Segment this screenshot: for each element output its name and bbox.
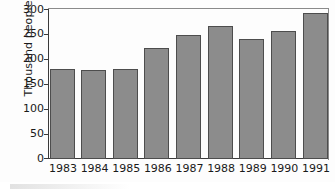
bar-slot-1986 <box>144 9 170 159</box>
y-tick-label-0: 0 <box>16 153 44 164</box>
x-tick-label-1991: 1991 <box>302 163 328 174</box>
bar-1985[interactable] <box>113 69 138 160</box>
bar-1988[interactable] <box>208 26 233 160</box>
bar-slot-1983 <box>49 9 75 159</box>
bar-slot-1989 <box>239 9 265 159</box>
x-tick-label-1986: 1986 <box>144 163 170 174</box>
x-axis-tick-labels: 1983 1984 1985 1986 1987 1988 1989 1990 … <box>49 163 328 174</box>
y-tick-label-150: 150 <box>16 78 44 89</box>
x-tick-label-1985: 1985 <box>112 163 138 174</box>
x-tick-label-1989: 1989 <box>239 163 265 174</box>
x-tick-label-1988: 1988 <box>207 163 233 174</box>
plot-right-border <box>328 8 329 160</box>
bar-slot-1991 <box>302 9 328 159</box>
y-axis-tick-labels: 300 250 200 150 100 50 0 <box>14 0 44 192</box>
bar-1984[interactable] <box>81 70 106 159</box>
bar-slot-1987 <box>176 9 202 159</box>
x-tick-label-1984: 1984 <box>81 163 107 174</box>
y-tick-label-50: 50 <box>16 128 44 139</box>
y-tick-label-300: 300 <box>16 4 44 15</box>
bar-1987[interactable] <box>176 35 201 160</box>
bar-slot-1985 <box>112 9 138 159</box>
x-tick-label-1990: 1990 <box>270 163 296 174</box>
bar-1983[interactable] <box>50 69 75 159</box>
x-tick-label-1987: 1987 <box>176 163 202 174</box>
x-tick-label-1983: 1983 <box>49 163 75 174</box>
bar-slot-1988 <box>207 9 233 159</box>
bar-chart: Thousand people 300 250 200 150 100 50 0… <box>0 0 335 192</box>
scan-artifact <box>10 184 130 189</box>
bar-slot-1990 <box>270 9 296 159</box>
bar-1986[interactable] <box>144 48 169 160</box>
bar-series <box>49 9 328 159</box>
y-tick-label-100: 100 <box>16 103 44 114</box>
bar-1990[interactable] <box>271 31 296 159</box>
y-tick-label-200: 200 <box>16 53 44 64</box>
y-tick-label-250: 250 <box>16 28 44 39</box>
bar-1991[interactable] <box>303 13 328 160</box>
bar-slot-1984 <box>81 9 107 159</box>
bar-1989[interactable] <box>239 39 264 160</box>
